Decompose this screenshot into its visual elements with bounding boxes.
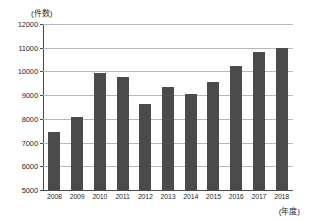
- x-axis-unit-label: (年度): [279, 205, 300, 216]
- bar-2012: [139, 104, 151, 190]
- y-tick-label-11000: 11000: [18, 44, 38, 53]
- bar-2014: [185, 94, 197, 190]
- y-tick-label-8000: 8000: [22, 115, 38, 124]
- bar-2018: [276, 48, 288, 190]
- y-axis-unit-label: (件数): [31, 7, 52, 18]
- y-tick-label-7000: 7000: [22, 139, 38, 148]
- x-tick-label-2018: 2018: [269, 193, 295, 200]
- y-tick-label-10000: 10000: [18, 67, 38, 76]
- bar-2015: [207, 82, 219, 190]
- bar-2017: [253, 52, 265, 190]
- y-tick-label-6000: 6000: [22, 162, 38, 171]
- bar-2010: [94, 73, 106, 190]
- bar-2011: [117, 77, 129, 190]
- bar-2013: [162, 87, 174, 190]
- plot-area: [43, 24, 293, 190]
- y-tick-mark-5000: [40, 190, 43, 191]
- gridline-5000: [43, 190, 293, 191]
- bar-2016: [230, 66, 242, 191]
- y-tick-label-9000: 9000: [22, 91, 38, 100]
- y-tick-label-5000: 5000: [22, 186, 38, 195]
- bar-2009: [71, 117, 83, 191]
- bar-2008: [48, 132, 60, 190]
- y-tick-label-12000: 12000: [18, 20, 38, 29]
- bar-chart: (件数) 50006000700080009000100001100012000…: [0, 0, 314, 222]
